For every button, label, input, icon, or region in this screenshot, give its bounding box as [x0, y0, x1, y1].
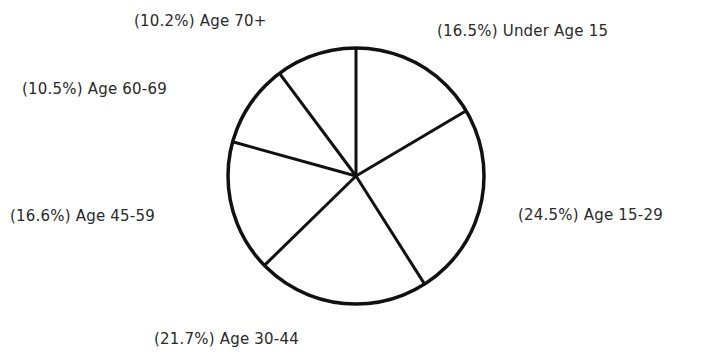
label-70-plus: (10.2%) Age 70+ [134, 12, 267, 30]
pie-graphic [0, 0, 710, 362]
label-45-59: (16.6%) Age 45-59 [10, 207, 155, 225]
label-15-29: (24.5%) Age 15-29 [518, 206, 663, 224]
pie-chart: (16.5%) Under Age 15 (24.5%) Age 15-29 (… [0, 0, 710, 362]
label-30-44: (21.7%) Age 30-44 [154, 330, 299, 348]
label-under-15: (16.5%) Under Age 15 [437, 22, 608, 40]
label-60-69: (10.5%) Age 60-69 [22, 80, 167, 98]
